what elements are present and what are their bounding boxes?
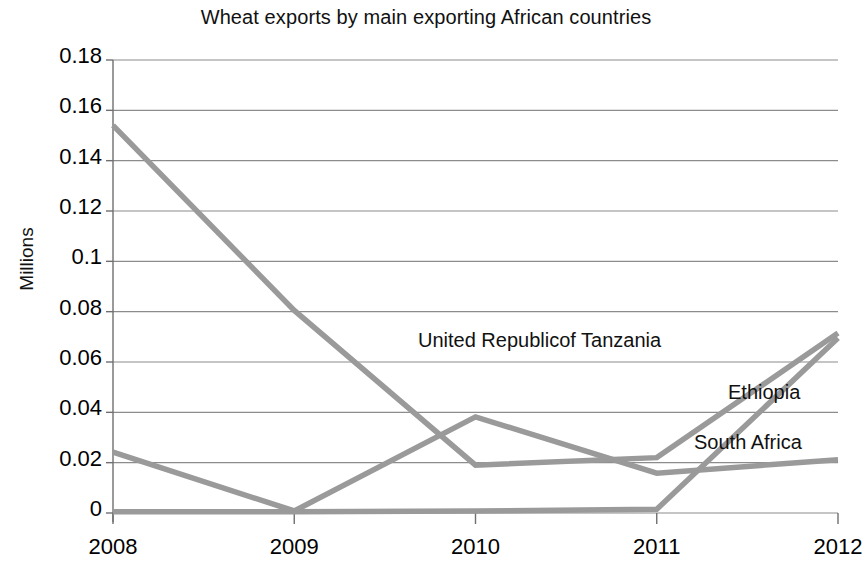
series-label: South Africa bbox=[694, 431, 802, 454]
x-tick-label: 2008 bbox=[63, 534, 163, 560]
y-tick-label: 0.12 bbox=[16, 196, 102, 218]
series-label: Ethiopia bbox=[728, 381, 800, 404]
x-tick-label: 2009 bbox=[244, 534, 344, 560]
y-tick-label: 0.18 bbox=[16, 45, 102, 67]
chart-title: Wheat exports by main exporting African … bbox=[0, 6, 852, 29]
y-tick-label: 0.1 bbox=[16, 246, 102, 268]
y-tick-label: 0.16 bbox=[16, 95, 102, 117]
x-tick-label: 2010 bbox=[426, 534, 526, 560]
y-tick-label: 0 bbox=[16, 498, 102, 520]
y-tick-label: 0.06 bbox=[16, 347, 102, 369]
series-label: United Republicof Tanzania bbox=[418, 329, 661, 352]
y-axis-tick-labels: 00.020.040.060.080.10.120.140.160.18 bbox=[0, 0, 102, 580]
x-tick-label: 2011 bbox=[607, 534, 707, 560]
x-tick-label: 2012 bbox=[788, 534, 867, 560]
y-tick-label: 0.08 bbox=[16, 297, 102, 319]
y-tick-label: 0.04 bbox=[16, 397, 102, 419]
y-tick-label: 0.14 bbox=[16, 146, 102, 168]
y-tick-label: 0.02 bbox=[16, 448, 102, 470]
